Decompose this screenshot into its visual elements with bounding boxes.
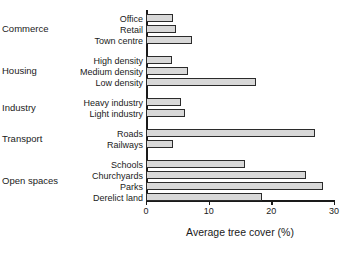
group-label: Industry — [2, 103, 86, 113]
category-label: Low density — [23, 79, 143, 88]
group-label: Housing — [2, 66, 86, 76]
category-label: Schools — [23, 161, 143, 170]
category-label: High density — [23, 57, 143, 66]
bar — [146, 129, 315, 137]
group-label: Open spaces — [2, 176, 86, 186]
bar-row — [146, 56, 334, 64]
x-tick-label: 0 — [134, 206, 158, 217]
bar-row — [146, 129, 334, 137]
bar-row — [146, 182, 334, 190]
bar-row — [146, 98, 334, 106]
bar — [146, 98, 181, 106]
bar-row — [146, 171, 334, 179]
bar — [146, 78, 256, 86]
bar-row — [146, 67, 334, 75]
bar — [146, 36, 192, 44]
x-tick-label: 30 — [322, 206, 346, 217]
x-tick-mark — [334, 200, 335, 205]
x-tick-label: 10 — [197, 206, 221, 217]
bar — [146, 140, 173, 148]
bar-row — [146, 109, 334, 117]
bar — [146, 25, 176, 33]
group-label: Commerce — [2, 24, 86, 34]
bar — [146, 193, 262, 201]
category-label: Town centre — [23, 37, 143, 46]
x-tick-label: 20 — [259, 206, 283, 217]
bar-row — [146, 140, 334, 148]
bar-chart: 0102030 OfficeRetailTown centreHigh dens… — [0, 0, 353, 253]
bar-row — [146, 160, 334, 168]
bar — [146, 171, 306, 179]
bar-row — [146, 25, 334, 33]
bar — [146, 67, 188, 75]
bar — [146, 56, 172, 64]
bar — [146, 160, 245, 168]
bar-row — [146, 78, 334, 86]
bar-row — [146, 14, 334, 22]
bar-row — [146, 36, 334, 44]
x-axis-title: Average tree cover (%) — [146, 226, 334, 239]
bar-row — [146, 193, 334, 201]
bar — [146, 109, 185, 117]
bar — [146, 14, 173, 22]
bar — [146, 182, 323, 190]
category-label: Derelict land — [23, 194, 143, 203]
group-label: Transport — [2, 134, 86, 144]
